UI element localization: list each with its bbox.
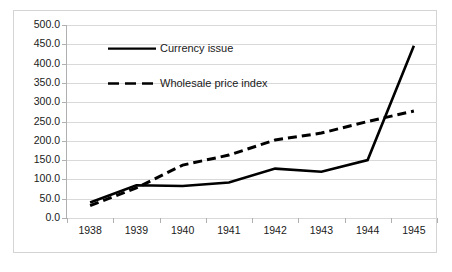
legend-swatch-solid-line — [108, 47, 156, 50]
legend-swatch-dashed-line — [108, 82, 156, 85]
chart-container: 0.050.0100.0150.0200.0250.0300.0350.0400… — [0, 0, 452, 272]
legend-label-currency-issue: Currency issue — [160, 41, 233, 55]
legend-label-wholesale-price-index: Wholesale price index — [160, 76, 268, 90]
series-line-wholesale-price-index — [90, 111, 414, 206]
series-line-currency-issue — [90, 46, 414, 203]
